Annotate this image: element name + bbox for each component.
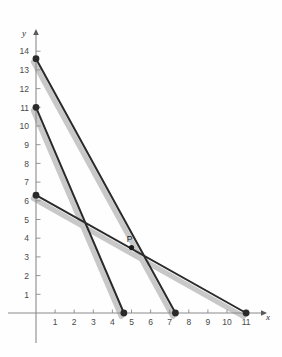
data-point-marker	[243, 310, 250, 317]
x-tick-label: 7	[167, 317, 172, 327]
x-tick-label: 11	[242, 317, 251, 327]
plot-canvas: 12345678910111234567891011121314 P x y	[0, 0, 282, 357]
x-tick-label: 8	[186, 317, 191, 327]
y-tick-label: 7	[24, 177, 29, 187]
point-p-marker	[129, 245, 134, 250]
y-tick-label: 4	[24, 233, 29, 243]
data-point-marker	[33, 104, 40, 111]
y-tick-label: 6	[24, 196, 29, 206]
y-tick-label: 8	[24, 159, 29, 169]
data-point-marker	[172, 310, 179, 317]
y-tick-label: 12	[20, 84, 30, 94]
y-tick-label: 10	[20, 121, 30, 131]
point-p-label: P	[127, 234, 133, 244]
y-tick-label: 3	[24, 252, 29, 262]
data-point-marker	[33, 55, 40, 62]
x-tick-label: 9	[206, 317, 211, 327]
x-tick-label: 4	[110, 317, 115, 327]
y-tick-label: 14	[20, 46, 30, 56]
data-point-marker	[120, 310, 127, 317]
chart-background	[0, 0, 282, 357]
y-tick-label: 11	[20, 103, 29, 113]
x-tick-label: 5	[129, 317, 134, 327]
y-axis-label: y	[21, 28, 26, 38]
x-tick-label: 1	[53, 317, 58, 327]
x-tick-label: 10	[222, 317, 232, 327]
y-tick-label: 13	[20, 65, 30, 75]
x-tick-label: 3	[91, 317, 96, 327]
y-tick-label: 2	[24, 271, 29, 281]
x-tick-label: 2	[72, 317, 77, 327]
x-tick-label: 6	[148, 317, 153, 327]
y-tick-label: 5	[24, 215, 29, 225]
y-tick-label: 1	[24, 290, 29, 300]
y-tick-label: 9	[24, 140, 29, 150]
x-axis-label: x	[265, 312, 270, 322]
data-point-marker	[33, 192, 40, 199]
chart-figure: 12345678910111234567891011121314 P x y	[0, 0, 282, 357]
